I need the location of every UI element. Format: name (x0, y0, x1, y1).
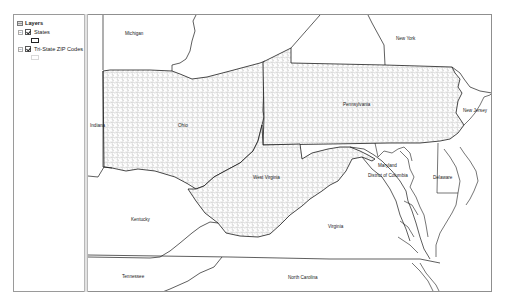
layer-visibility-checkbox-zip-codes[interactable] (25, 46, 31, 52)
map-canvas[interactable]: Michigan New York Indiana Ohio Pennsylva… (88, 15, 492, 292)
label-virginia: Virginia (328, 224, 344, 229)
label-new-york: New York (396, 36, 416, 41)
label-tennessee: Tennessee (122, 274, 145, 279)
label-maryland: Maryland (378, 163, 397, 168)
pennsylvania-polygon[interactable] (263, 48, 464, 145)
label-pennsylvania: Pennsylvania (343, 102, 371, 107)
toc-root-label: Layers (25, 20, 43, 26)
delaware-border (437, 143, 460, 193)
table-of-contents-panel: Layers − States − Tri-State ZIP Codes (13, 14, 84, 292)
collapse-toggle-icon[interactable]: − (18, 47, 23, 52)
toc-layer-label-states: States (34, 29, 50, 35)
toc-root-layers[interactable]: Layers (17, 20, 43, 26)
zip-codes-symbol-swatch[interactable] (31, 55, 39, 60)
map-view[interactable]: Michigan New York Indiana Ohio Pennsylva… (88, 14, 492, 292)
maryland-border (375, 143, 412, 161)
label-delaware: Delaware (433, 175, 453, 180)
delmarva-shore (436, 193, 458, 257)
layer-visibility-checkbox-states[interactable] (25, 29, 31, 35)
michigan-border (103, 15, 196, 71)
layers-icon (17, 21, 23, 26)
label-michigan: Michigan (125, 31, 144, 36)
states-symbol-swatch[interactable] (31, 38, 39, 43)
label-indiana: Indiana (90, 123, 106, 128)
toc-layer-zip-codes[interactable]: − Tri-State ZIP Codes (18, 46, 83, 52)
label-new-jersey: New Jersey (463, 108, 488, 113)
label-district-of-columbia: District of Columbia (368, 173, 408, 178)
toc-layer-states[interactable]: − States (18, 29, 50, 35)
label-north-carolina: North Carolina (288, 275, 318, 280)
label-kentucky: Kentucky (131, 217, 151, 222)
label-ohio: Ohio (178, 123, 188, 128)
toc-layer-label-zip-codes: Tri-State ZIP Codes (34, 46, 83, 52)
label-west-virginia: West Virginia (253, 175, 280, 180)
collapse-toggle-icon[interactable]: − (18, 30, 23, 35)
